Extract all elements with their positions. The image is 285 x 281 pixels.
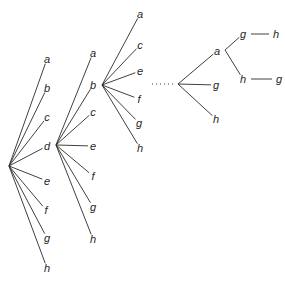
level1-edge: [9, 121, 44, 166]
level1-edge: [9, 166, 45, 263]
final-sub-node-h: h: [240, 73, 246, 85]
level3-edge: [102, 49, 137, 85]
final-sub-edge: [225, 50, 240, 75]
final-sub-edge: [225, 37, 239, 50]
level1-edge: [9, 166, 45, 234]
final-sub-node-g: g: [240, 28, 247, 40]
level2-node-f: f: [91, 170, 95, 182]
tree-labels: abcdefghabcefghacefghaghghhg: [44, 8, 283, 274]
level3-edge: [102, 85, 134, 97]
final-node-g: g: [213, 79, 220, 91]
final-node-a: a: [214, 45, 220, 57]
level2-edge: [56, 115, 89, 145]
level2-edge: [56, 145, 91, 234]
level2-node-b: b: [90, 79, 96, 91]
final-edge: [178, 54, 213, 84]
final-node-h: h: [213, 113, 219, 125]
level1-node-a: a: [44, 53, 50, 65]
tree-diagram: abcdefghabcefghacefghaghghhg: [0, 0, 285, 281]
final-edge: [178, 84, 211, 85]
level2-node-g: g: [90, 201, 97, 213]
final-edge: [178, 84, 212, 116]
level2-node-c: c: [90, 106, 96, 118]
level1-node-c: c: [44, 111, 50, 123]
level1-node-d: d: [44, 140, 51, 152]
level2-node-h: h: [90, 233, 96, 245]
final-leaf-node-h: h: [273, 28, 279, 40]
level1-edge: [9, 92, 45, 166]
level3-edge: [102, 73, 135, 85]
level3-node-g: g: [136, 117, 143, 129]
level3-node-c: c: [137, 39, 143, 51]
level1-node-h: h: [44, 262, 50, 274]
level3-edge: [102, 18, 138, 85]
level1-node-f: f: [44, 204, 48, 216]
level3-node-f: f: [137, 93, 141, 105]
level2-node-e: e: [90, 140, 96, 152]
level3-node-e: e: [137, 65, 143, 77]
level2-edge: [56, 145, 89, 173]
level3-edge: [102, 85, 136, 119]
level1-node-b: b: [44, 82, 50, 94]
level1-edge: [9, 64, 45, 166]
level2-edge: [56, 58, 91, 145]
level3-edge: [102, 85, 137, 144]
level2-edge: [56, 145, 90, 203]
final-leaf-node-g: g: [276, 73, 283, 85]
level2-node-a: a: [90, 47, 96, 59]
level1-edge: [9, 166, 43, 206]
level3-node-h: h: [137, 142, 143, 154]
level2-edge: [56, 89, 90, 145]
level2-edge: [56, 145, 88, 146]
level1-node-e: e: [44, 175, 50, 187]
level3-node-a: a: [137, 8, 143, 20]
level1-node-g: g: [44, 232, 51, 244]
